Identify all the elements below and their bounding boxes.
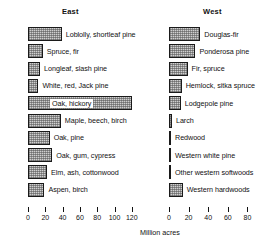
bar <box>28 165 47 179</box>
bar <box>169 79 182 93</box>
bar <box>169 148 171 162</box>
bar-row: Elm, ash, cottonwood <box>28 164 119 180</box>
axis-tick <box>132 207 133 212</box>
axis-tick <box>115 207 116 212</box>
bar-label: Maple, beech, birch <box>65 116 127 125</box>
axis-tick <box>247 207 248 212</box>
panel-east: East Loblolly, shortleaf pineSpruce, fir… <box>0 0 140 243</box>
bar-row: Western white pine <box>169 147 235 163</box>
bar-row: Spruce, fir <box>28 43 79 59</box>
x-axis-title: Million acres <box>140 228 180 237</box>
bar-row: Longleaf, slash pine <box>28 61 107 77</box>
axis-tick <box>189 207 190 212</box>
axis-tick <box>97 207 98 212</box>
bar <box>28 148 52 162</box>
bar <box>28 131 50 145</box>
bar-row: Lodgepole pine <box>169 95 233 111</box>
bar-row: Western hardwoods <box>169 182 250 198</box>
panel-west: West Douglas-firPonderosa pineFir, spruc… <box>140 0 268 243</box>
bar-row: Larch <box>169 113 194 129</box>
bar-row: Redwood <box>169 130 205 146</box>
bar-row: Hemlock, sitka spruce <box>169 78 255 94</box>
axis-tick <box>169 207 170 212</box>
bar-label: Western hardwoods <box>187 185 250 194</box>
bar-label: Oak, pine <box>54 133 84 142</box>
bar-label: Spruce, fir <box>47 47 79 56</box>
bar <box>169 183 183 197</box>
bar-label: Hemlock, sitka spruce <box>186 81 255 90</box>
bar <box>169 62 188 76</box>
axis-tick <box>63 207 64 212</box>
axis-tick <box>28 207 29 212</box>
axis-tick-label: 20 <box>41 214 49 221</box>
axis-tick <box>45 207 46 212</box>
forest-area-bar-chart: East Loblolly, shortleaf pineSpruce, fir… <box>0 0 268 243</box>
bar <box>28 183 44 197</box>
bar <box>28 114 61 128</box>
bar-label: Oak, hickory <box>50 99 93 108</box>
bar-label: Douglas-fir <box>204 30 238 39</box>
bar-row: Oak, pine <box>28 130 84 146</box>
bar-label: Aspen, birch <box>48 185 87 194</box>
bar-row: Ponderosa pine <box>169 43 249 59</box>
axis-tick-label: 80 <box>243 214 251 221</box>
bar-row: Douglas-fir <box>169 26 239 42</box>
axis-tick-label: 0 <box>26 214 30 221</box>
panel-west-axis: 020406080 <box>140 207 268 243</box>
axis-tick-label: 100 <box>109 214 121 221</box>
axis-tick-label: 40 <box>59 214 67 221</box>
axis-tick-label: 0 <box>167 214 171 221</box>
bar-label: Fir, spruce <box>192 64 225 73</box>
panel-east-title: East <box>62 7 79 16</box>
bar-row: Oak, gum, cypress <box>28 147 115 163</box>
bar-label: Redwood <box>175 133 205 142</box>
axis-tick-label: 80 <box>93 214 101 221</box>
axis-tick <box>208 207 209 212</box>
bar <box>169 96 181 110</box>
bar-row: Other western softwoods <box>169 164 253 180</box>
bar-label: Larch <box>176 116 194 125</box>
bar <box>169 27 200 41</box>
bar-label: Ponderosa pine <box>199 47 249 56</box>
axis-tick-label: 60 <box>224 214 232 221</box>
bar-label: Longleaf, slash pine <box>44 64 107 73</box>
axis-tick-label: 60 <box>76 214 84 221</box>
bar-row: Oak, hickory <box>28 95 132 111</box>
bar <box>169 165 171 179</box>
panel-east-axis: 020406080100120 <box>0 207 140 243</box>
bar-row: Loblolly, shortleaf pine <box>28 26 136 42</box>
bar-label: White, red, Jack pine <box>42 81 108 90</box>
bar <box>28 27 62 41</box>
bar-label: Western white pine <box>175 151 235 160</box>
axis-tick-label: 120 <box>126 214 138 221</box>
bar-label: Other western softwoods <box>175 168 253 177</box>
axis-tick <box>228 207 229 212</box>
panel-west-title: West <box>203 7 222 16</box>
bar-label: Loblolly, shortleaf pine <box>66 30 136 39</box>
axis-tick-label: 20 <box>185 214 193 221</box>
bar <box>169 44 195 58</box>
bar-row: Aspen, birch <box>28 182 88 198</box>
bar-label: Lodgepole pine <box>185 99 233 108</box>
bar <box>28 79 38 93</box>
bar <box>169 131 171 145</box>
bar-row: Maple, beech, birch <box>28 113 127 129</box>
bar-label: Oak, gum, cypress <box>56 151 115 160</box>
bar <box>169 114 172 128</box>
bar <box>28 62 40 76</box>
bar-row: Fir, spruce <box>169 61 225 77</box>
bar-row: White, red, Jack pine <box>28 78 108 94</box>
bar <box>28 44 43 58</box>
bar-label: Elm, ash, cottonwood <box>51 168 119 177</box>
axis-tick-label: 40 <box>204 214 212 221</box>
axis-tick <box>80 207 81 212</box>
